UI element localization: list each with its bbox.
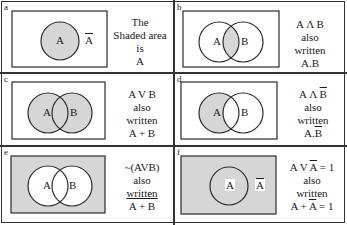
set-b-label: B	[69, 179, 76, 191]
panel-c: c A B A V B also written A + B	[2, 74, 173, 145]
set-b-label: B	[241, 35, 248, 47]
set-a-label: A	[213, 35, 221, 47]
panel-f: f A A A V A = 1 also written A + A = 1	[175, 147, 345, 223]
caption: ~(AVB) also written A + B	[112, 161, 172, 213]
set-b-label: B	[241, 106, 248, 118]
panel-b: b A B A Λ B also written A.B	[175, 2, 345, 72]
panel-a: a A A The Shaded area is A	[2, 2, 173, 72]
complement-label: A	[255, 179, 265, 191]
complement-label: A	[85, 34, 93, 46]
set-a-label: A	[225, 179, 235, 191]
set-b-label: B	[70, 106, 77, 118]
caption: A V B also written A + B	[112, 88, 172, 140]
caption: A Λ B also written A.B	[280, 18, 340, 70]
set-a-label: A	[213, 106, 221, 118]
caption: The Shaded area is A	[110, 16, 170, 68]
set-a-label: A	[43, 106, 51, 118]
set-a-label: A	[43, 179, 51, 191]
set-a-label: A	[56, 34, 64, 46]
caption: A Λ B also written A.B	[283, 88, 343, 140]
panel-d: d A B A Λ B also written A.B	[175, 74, 345, 145]
panel-e: e A B ~(AVB) also written A + B	[2, 147, 173, 223]
caption: A V A = 1 also written A + A = 1	[279, 161, 345, 213]
